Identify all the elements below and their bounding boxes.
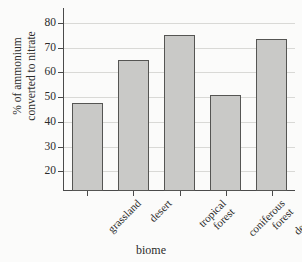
y-axis-tick-label: 30	[0, 141, 56, 153]
x-axis-label: desert	[147, 197, 174, 224]
bar	[72, 103, 103, 191]
x-axis-title: biome	[0, 243, 302, 258]
x-axis-tick	[180, 191, 181, 196]
x-axis-tick	[272, 191, 273, 196]
x-axis-label: grassland	[105, 197, 143, 235]
y-axis-tick-label: 20	[0, 165, 56, 177]
bar	[256, 39, 287, 191]
x-axis-label: tropicalforest	[195, 197, 236, 238]
y-axis-title-line: % of ammonium	[10, 14, 24, 138]
plot-area	[64, 8, 295, 191]
x-axis-tick	[133, 191, 134, 196]
x-axis-label-line: deciduous	[291, 197, 302, 237]
bar	[210, 95, 241, 191]
x-axis-tick	[87, 191, 88, 196]
bar	[118, 60, 149, 191]
bar-chart-figure: 20304050607080 grasslanddeserttropicalfo…	[0, 0, 302, 262]
x-axis-label-line: grassland	[105, 197, 143, 235]
y-axis-title: % of ammoniumconverted to nitrate	[10, 14, 38, 138]
x-axis-label: coniferousforest	[245, 197, 295, 247]
x-axis-tick	[226, 191, 227, 196]
bar	[164, 35, 195, 191]
y-axis-title-line: converted to nitrate	[24, 14, 38, 138]
x-axis-label-line: desert	[147, 197, 174, 224]
x-axis-label: deciduousforest	[291, 197, 302, 246]
